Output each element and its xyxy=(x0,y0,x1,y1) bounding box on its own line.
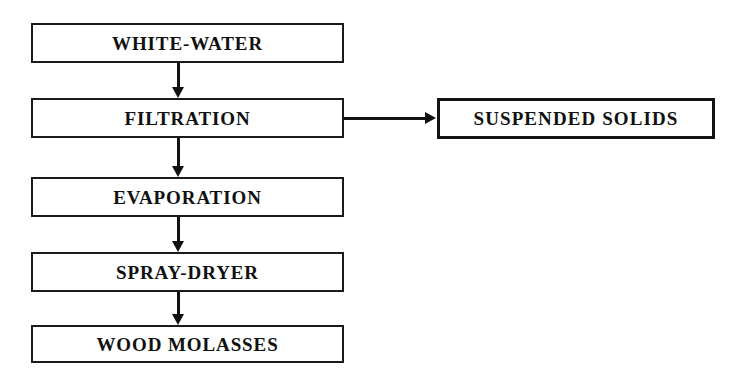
arrowhead-evaporation-to-spray-dryer xyxy=(172,241,184,252)
connector-filtration-to-evaporation xyxy=(177,138,180,169)
node-filtration[interactable]: FILTRATION xyxy=(31,98,344,138)
node-label-suspended-solids: SUSPENDED SOLIDS xyxy=(473,109,678,128)
flowchart-canvas: WHITE-WATER FILTRATION SUSPENDED SOLIDS … xyxy=(0,0,741,381)
arrowhead-spray-dryer-to-wood-molasses xyxy=(172,314,184,325)
arrowhead-filtration-to-evaporation xyxy=(172,166,184,177)
node-white-water[interactable]: WHITE-WATER xyxy=(31,23,344,63)
node-evaporation[interactable]: EVAPORATION xyxy=(31,177,344,217)
connector-evaporation-to-spray-dryer xyxy=(177,217,180,244)
node-label-filtration: FILTRATION xyxy=(124,109,250,128)
node-wood-molasses[interactable]: WOOD MOLASSES xyxy=(31,325,344,363)
node-label-evaporation: EVAPORATION xyxy=(113,188,262,207)
node-label-spray-dryer: SPRAY-DRYER xyxy=(116,263,259,282)
node-spray-dryer[interactable]: SPRAY-DRYER xyxy=(31,252,344,292)
node-label-wood-molasses: WOOD MOLASSES xyxy=(96,335,278,354)
arrowhead-white-water-to-filtration xyxy=(172,87,184,98)
node-suspended-solids[interactable]: SUSPENDED SOLIDS xyxy=(437,98,715,139)
connector-filtration-to-suspended-solids xyxy=(344,117,427,120)
connector-white-water-to-filtration xyxy=(177,63,180,90)
arrowhead-filtration-to-suspended-solids xyxy=(425,112,436,124)
node-label-white-water: WHITE-WATER xyxy=(112,34,263,53)
